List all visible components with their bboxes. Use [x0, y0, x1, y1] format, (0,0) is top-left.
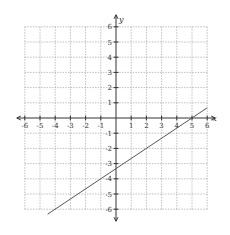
axes — [17, 15, 215, 221]
y-tick-label: -5 — [105, 191, 112, 199]
y-tick-label: 5 — [108, 39, 112, 47]
x-tick-label: -1 — [97, 122, 104, 130]
coordinate-plane: -6-5-4-3-2-1123456-6-5-4-3-2-1123456xy — [0, 0, 230, 235]
x-axis-label: x — [212, 114, 217, 123]
x-tick-label: -6 — [21, 122, 28, 130]
x-tick-label: -4 — [52, 122, 59, 130]
y-tick-label: 6 — [108, 23, 113, 31]
y-tick-label: 1 — [108, 99, 112, 107]
x-tick-label: 5 — [190, 122, 194, 130]
y-tick-label: -4 — [105, 175, 112, 183]
x-tick-label: 3 — [159, 122, 163, 130]
y-tick-label: 2 — [108, 84, 112, 92]
x-tick-label: -2 — [82, 122, 89, 130]
y-tick-label: -6 — [105, 206, 112, 214]
x-tick-label: 1 — [129, 122, 133, 130]
y-tick-label: 4 — [108, 54, 113, 62]
x-tick-label: -3 — [67, 122, 74, 130]
y-tick-label: -1 — [105, 130, 112, 138]
x-tick-label: -5 — [37, 122, 44, 130]
y-tick-label: -3 — [105, 160, 112, 168]
x-tick-label: 2 — [144, 122, 148, 130]
y-tick-label: -2 — [105, 145, 112, 153]
tick-labels: -6-5-4-3-2-1123456-6-5-4-3-2-1123456xy — [21, 15, 217, 214]
y-axis-label: y — [118, 15, 124, 24]
y-tick-label: 3 — [108, 69, 112, 77]
x-tick-label: 6 — [205, 122, 210, 130]
